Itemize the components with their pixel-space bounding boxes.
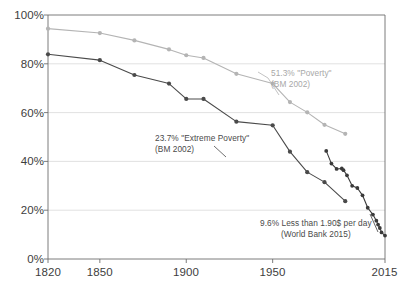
data-point bbox=[366, 206, 370, 210]
data-point bbox=[201, 56, 205, 60]
poverty-annotation: 51.3% "Poverty" (BM 2002) bbox=[271, 68, 332, 89]
y-axis-tick-100: 100% bbox=[2, 9, 44, 21]
y-axis-tick-80: 80% bbox=[2, 58, 44, 70]
poverty-trend-chart: 100% 80% 60% 40% 20% 0% 1820 1850 1900 1… bbox=[0, 0, 405, 295]
data-point bbox=[380, 231, 384, 235]
data-point bbox=[305, 170, 309, 174]
data-point bbox=[288, 150, 292, 154]
data-point bbox=[355, 186, 359, 190]
data-point bbox=[98, 31, 102, 35]
data-point bbox=[234, 120, 238, 124]
data-point bbox=[234, 72, 238, 76]
data-point bbox=[184, 53, 188, 57]
poverty-annotation-line1: 51.3% "Poverty" bbox=[271, 68, 332, 78]
data-point bbox=[184, 97, 188, 101]
x-axis-tick-1900: 1900 bbox=[173, 266, 199, 278]
data-point bbox=[378, 226, 382, 230]
data-point bbox=[343, 199, 347, 203]
data-point bbox=[324, 149, 328, 153]
data-point bbox=[383, 234, 387, 238]
data-point bbox=[361, 193, 365, 197]
y-axis-tick-20: 20% bbox=[2, 204, 44, 216]
data-point bbox=[46, 27, 50, 31]
data-point bbox=[271, 123, 275, 127]
data-point bbox=[201, 97, 205, 101]
data-point bbox=[376, 223, 380, 227]
x-axis-tick-1850: 1850 bbox=[87, 266, 113, 278]
extreme-poverty-annotation-line1: 23.7% "Extreme Poverty" bbox=[155, 133, 249, 143]
data-point bbox=[335, 167, 339, 171]
extreme-poverty-annotation-line2: (BM 2002) bbox=[155, 144, 249, 155]
data-point bbox=[343, 132, 347, 136]
data-point bbox=[322, 180, 326, 184]
x-axis-tick-1950: 1950 bbox=[259, 266, 285, 278]
data-point bbox=[132, 38, 136, 42]
x-axis-tick-1820: 1820 bbox=[35, 266, 61, 278]
data-point bbox=[345, 173, 349, 177]
data-point bbox=[167, 81, 171, 85]
data-point bbox=[342, 168, 346, 172]
poverty-leader-line bbox=[258, 72, 268, 78]
data-point bbox=[374, 219, 378, 223]
extreme-poverty-annotation: 23.7% "Extreme Poverty" (BM 2002) bbox=[155, 133, 249, 154]
x-axis-tick-2015: 2015 bbox=[372, 266, 398, 278]
world-bank-annotation-line1: 9.6% Less than 1.90$ per day bbox=[260, 218, 372, 228]
world-bank-annotation-line2: (World Bank 2015) bbox=[260, 229, 372, 240]
data-point bbox=[167, 47, 171, 51]
poverty-annotation-line2: (BM 2002) bbox=[271, 79, 332, 90]
world-bank-annotation: 9.6% Less than 1.90$ per day (World Bank… bbox=[260, 218, 372, 239]
data-point bbox=[98, 58, 102, 62]
data-point bbox=[350, 184, 354, 188]
y-axis-tick-60: 60% bbox=[2, 107, 44, 119]
grid-lines bbox=[48, 15, 385, 210]
data-point bbox=[305, 110, 309, 114]
y-axis-tick-0: 0% bbox=[2, 253, 44, 265]
data-point bbox=[330, 162, 334, 166]
data-point bbox=[371, 213, 375, 217]
data-point bbox=[46, 52, 50, 56]
data-point bbox=[132, 73, 136, 77]
y-axis-tick-40: 40% bbox=[2, 155, 44, 167]
data-point bbox=[288, 100, 292, 104]
data-point bbox=[322, 123, 326, 127]
